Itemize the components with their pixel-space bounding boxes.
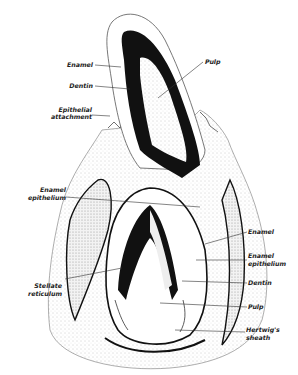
label-hertwigs-sheath-line2: sheath (246, 334, 270, 341)
label-epithelial-attachment-line2: attachment (40, 113, 92, 120)
label-enamel-top: Enamel (46, 61, 93, 68)
label-enamel-epithelium-left-line2: epithelium (14, 194, 66, 201)
label-dentin-top: Dentin (46, 82, 93, 89)
label-enamel-epithelium-right-line1: Enamel (248, 252, 274, 259)
label-stellate-reticulum-line1: Stellate (10, 282, 62, 289)
label-dentin-bottom: Dentin (248, 279, 272, 286)
label-enamel-epithelium-left-line1: Enamel (14, 186, 66, 193)
label-pulp-bottom: Pulp (248, 303, 264, 310)
label-hertwigs-sheath-line1: Hertwig's (246, 326, 280, 333)
label-pulp-top: Pulp (205, 58, 221, 65)
label-stellate-reticulum-line2: reticulum (10, 290, 62, 297)
label-enamel-epithelium-right-line2: epithelium (248, 260, 286, 267)
diagram-canvas: Enamel Dentin Epithelial attachment Enam… (0, 0, 298, 375)
label-enamel-bottom: Enamel (248, 228, 274, 235)
